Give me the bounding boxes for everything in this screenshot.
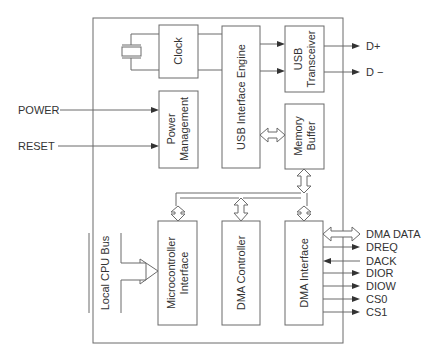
reset-label: RESET: [18, 140, 55, 152]
transceiver-label-2: Transceiver: [305, 30, 317, 87]
usb-transceiver-block: USB Transceiver: [285, 26, 324, 92]
usb-interface-engine-block: USB Interface Engine: [222, 26, 260, 168]
cs0-label: CS0: [366, 293, 387, 305]
micro-label-1: Microcontroller: [165, 237, 177, 309]
usb-engine-label: USB Interface Engine: [235, 44, 247, 150]
usb-controller-block-diagram: Clock USB Interface Engine USB Transceiv…: [0, 0, 434, 357]
cs1-label: CS1: [366, 306, 387, 318]
dma-controller-label: DMA Controller: [235, 235, 247, 310]
dma-interface-label: DMA Interface: [298, 238, 310, 308]
diow-label: DIOW: [366, 280, 397, 292]
memory-label-2: Buffer: [305, 121, 317, 150]
d-minus-label: D −: [366, 66, 383, 78]
dior-label: DIOR: [366, 267, 394, 279]
clock-label: Clock: [172, 37, 184, 65]
micro-label-2: Interface: [178, 252, 190, 295]
dma-interface-block: DMA Interface: [285, 221, 323, 325]
power-label-1: Power: [165, 113, 177, 145]
dreq-label: DREQ: [366, 241, 398, 253]
dma-controller-block: DMA Controller: [222, 221, 260, 325]
dma-data-label: DMA DATA: [366, 228, 421, 240]
power-management-block: Power Management: [159, 91, 198, 168]
power-label-2: Management: [178, 97, 190, 161]
clock-block: Clock: [159, 25, 198, 78]
power-label: POWER: [18, 104, 60, 116]
transceiver-label-1: USB: [292, 48, 304, 71]
d-plus-label: D+: [366, 40, 380, 52]
memory-buffer-block: Memory Buffer: [285, 104, 324, 169]
dack-label: DACK: [366, 255, 397, 267]
microcontroller-interface-block: Microcontroller Interface: [158, 221, 197, 325]
local-cpu-bus-label: Local CPU Bus: [99, 235, 111, 310]
memory-label-1: Memory: [292, 116, 304, 156]
